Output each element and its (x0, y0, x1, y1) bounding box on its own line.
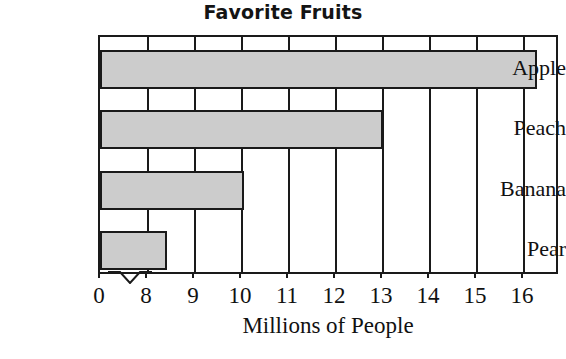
x-axis-line (98, 272, 558, 274)
category-label-apple: Apple (470, 55, 566, 81)
x-tick (145, 272, 147, 278)
x-tick (333, 272, 335, 278)
bar-pear[interactable] (100, 231, 167, 270)
x-tick (286, 272, 288, 278)
x-tick (521, 272, 523, 278)
x-tick (474, 272, 476, 278)
bar-chart: Favorite Fruits Apple Peach Banana Pear … (0, 0, 566, 359)
x-tick (380, 272, 382, 278)
x-tick (427, 272, 429, 278)
category-label-peach: Peach (470, 115, 566, 141)
bar-banana[interactable] (100, 171, 244, 210)
category-label-banana: Banana (470, 176, 566, 202)
category-label-pear: Pear (470, 236, 566, 262)
x-axis-title: Millions of People (98, 313, 558, 339)
x-tick (192, 272, 194, 278)
x-tick (98, 272, 100, 278)
chart-title: Favorite Fruits (0, 1, 566, 23)
x-tick (239, 272, 241, 278)
bar-peach[interactable] (100, 110, 383, 149)
x-tick-label-16: 16 (492, 283, 552, 309)
